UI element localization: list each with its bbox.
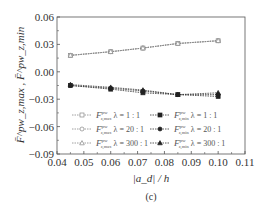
y-axis: 0.060.030.00−0.03−0.06−0.09 [29, 11, 60, 160]
x-axis-title: |a_d| / h [133, 172, 170, 184]
legend-label: Fpwz,maxλ = 300 : 1 [95, 138, 148, 151]
y-title-text: F̄^pw_z,max , F̄^pw_z,min [14, 26, 26, 144]
series-line [68, 38, 220, 57]
figure-caption: (c) [145, 191, 156, 203]
legend-label: Fpwz,minλ = 300 : 1 [173, 138, 225, 151]
x-tick-label: 0.09 [182, 156, 202, 168]
x-tick-label: 0.04 [47, 156, 67, 168]
line-chart: 0.060.030.00−0.03−0.06−0.09 0.040.050.06… [0, 0, 267, 212]
x-tick-label: 0.05 [74, 156, 94, 168]
y-tick-label: −0.06 [29, 121, 55, 133]
x-tick-label: 0.07 [128, 156, 148, 168]
legend-item: Fpwz,maxλ = 1 : 1 [72, 110, 140, 123]
x-tick-label: 0.08 [155, 156, 175, 168]
data-series [68, 38, 220, 98]
x-tick-label: 0.10 [209, 156, 229, 168]
legend-item: Fpwz,maxλ = 300 : 1 [72, 138, 148, 151]
legend-label: Fpwz,minλ = 20 : 1 [173, 124, 221, 137]
legend-label: Fpwz,maxλ = 20 : 1 [95, 124, 144, 137]
y-tick-label: −0.03 [29, 93, 55, 105]
x-tick-label: 0.11 [236, 156, 255, 168]
legend-item: Fpwz,maxλ = 20 : 1 [72, 124, 144, 137]
legend: Fpwz,maxλ = 1 : 1Fpwz,minλ = 1 : 1Fpwz,m… [72, 110, 225, 151]
y-tick-label: 0.00 [35, 66, 55, 78]
legend-label: Fpwz,minλ = 1 : 1 [173, 110, 217, 123]
y-tick-label: 0.03 [35, 38, 55, 50]
y-axis-title: F̄^pw_z,max , F̄^pw_z,min [14, 26, 26, 144]
x-tick-label: 0.06 [101, 156, 121, 168]
svg-text:F̄^pw_z,max , F̄^pw_z,min: F̄^pw_z,max , F̄^pw_z,min [14, 26, 26, 144]
x-axis: 0.040.050.060.070.080.090.100.11 [47, 151, 254, 168]
y-tick-label: 0.06 [35, 11, 55, 23]
legend-label: Fpwz,maxλ = 1 : 1 [95, 110, 140, 123]
legend-item: Fpwz,minλ = 1 : 1 [150, 110, 217, 123]
legend-item: Fpwz,minλ = 20 : 1 [150, 124, 221, 137]
legend-item: Fpwz,minλ = 300 : 1 [150, 138, 225, 151]
